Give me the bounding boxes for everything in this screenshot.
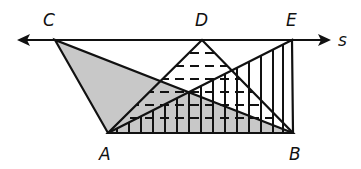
geometry-diagram: C D E s A B bbox=[0, 0, 361, 169]
label-s: s bbox=[338, 30, 347, 50]
label-b: B bbox=[289, 144, 301, 164]
label-c: C bbox=[43, 10, 55, 30]
label-a: A bbox=[98, 144, 111, 164]
label-d: D bbox=[195, 10, 208, 30]
label-e: E bbox=[286, 10, 297, 30]
